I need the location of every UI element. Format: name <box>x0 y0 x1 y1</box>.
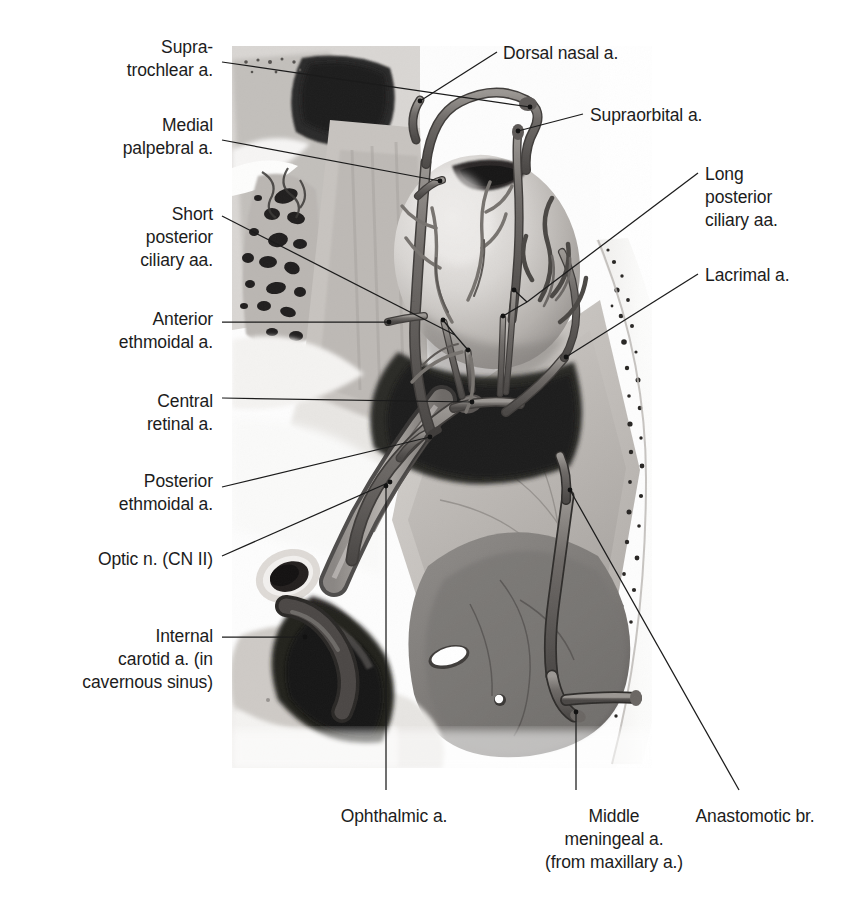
leader-anterior-ethmoidal <box>222 320 391 325</box>
label-internal-carotid-artery: Internal carotid a. (in cavernous sinus) <box>82 625 213 693</box>
label-long-posterior-ciliary-arteries: Long posterior ciliary aa. <box>705 163 778 231</box>
label-posterior-ethmoidal-artery: Posterior ethmoidal a. <box>119 470 213 516</box>
leader-ophthalmic <box>384 484 389 790</box>
leader-anastomotic <box>568 488 739 790</box>
label-lacrimal-artery: Lacrimal a. <box>705 264 790 287</box>
leader-middle-meningeal <box>574 710 579 790</box>
label-ophthalmic-artery: Ophthalmic a. <box>274 805 514 828</box>
leader-optic-nerve <box>222 480 392 556</box>
label-central-retinal-artery: Central retinal a. <box>147 390 213 436</box>
leader-short-posterior-ciliary <box>222 216 470 352</box>
label-optic-nerve: Optic n. (CN II) <box>98 548 213 571</box>
leader-dorsal-nasal <box>418 52 497 103</box>
leader-lacrimal <box>564 274 698 359</box>
leader-long-posterior-ciliary <box>501 173 698 318</box>
leader-supratrochlear <box>222 62 532 109</box>
figure-canvas: Supra- trochlear a. Medial palpebral a. … <box>0 0 842 914</box>
label-supraorbital-artery: Supraorbital a. <box>590 104 702 127</box>
leader-internal-carotid <box>222 635 307 640</box>
leader-medial-palpebral <box>222 140 442 183</box>
leader-supraorbital <box>516 114 583 133</box>
label-short-posterior-ciliary-arteries: Short posterior ciliary aa. <box>140 203 213 271</box>
label-medial-palpebral-artery: Medial palpebral a. <box>123 114 213 160</box>
label-dorsal-nasal-artery: Dorsal nasal a. <box>503 42 618 65</box>
leader-posterior-ethmoidal <box>222 435 432 487</box>
label-anterior-ethmoidal-artery: Anterior ethmoidal a. <box>119 308 213 354</box>
label-supratrochlear-artery: Supra- trochlear a. <box>127 36 213 82</box>
label-anastomotic-branch: Anastomotic br. <box>655 805 842 828</box>
leader-central-retinal <box>222 398 474 404</box>
